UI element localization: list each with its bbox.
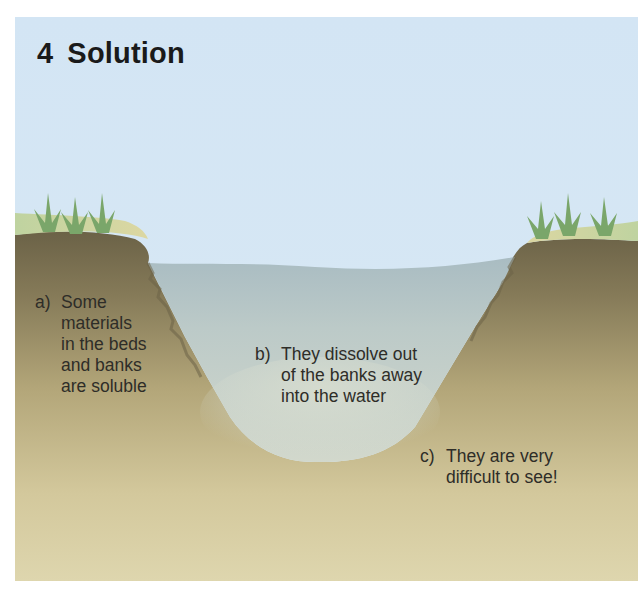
diagram-title: 4Solution bbox=[37, 37, 185, 70]
label-a-letter: a) bbox=[35, 292, 61, 313]
label-b-dissolve: b) They dissolve out of the banks away i… bbox=[255, 344, 422, 407]
label-a-text: Some materials in the beds and banks are… bbox=[61, 292, 147, 397]
label-b-letter: b) bbox=[255, 344, 281, 365]
label-a-soluble-materials: a) Some materials in the beds and banks … bbox=[35, 292, 147, 397]
label-b-text: They dissolve out of the banks away into… bbox=[281, 344, 422, 407]
title-number: 4 bbox=[37, 37, 53, 69]
diagram-panel: 4Solution a) Some materials in the beds … bbox=[15, 17, 638, 581]
label-c-letter: c) bbox=[420, 446, 446, 467]
label-c-text: They are very difficult to see! bbox=[446, 446, 558, 488]
title-text: Solution bbox=[67, 37, 185, 69]
label-c-hard-to-see: c) They are very difficult to see! bbox=[420, 446, 558, 488]
